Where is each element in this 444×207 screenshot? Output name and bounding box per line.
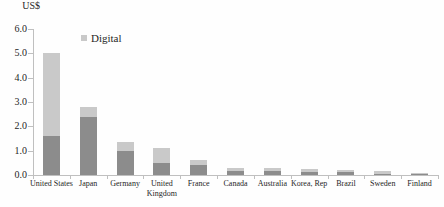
- x-category-label: Finland: [398, 179, 442, 189]
- bar-segment-base: [190, 165, 207, 175]
- bar-segment-base: [374, 174, 391, 175]
- y-tick-label: 2.0: [1, 120, 27, 131]
- digital-series-swatch-icon: [81, 35, 87, 41]
- bar-segment-digital: [153, 148, 170, 163]
- y-tick-label: 4.0: [1, 72, 27, 83]
- y-tick-label: 0.0: [1, 169, 27, 180]
- bar-segment-digital: [227, 168, 244, 171]
- bar-segment-digital: [411, 173, 428, 174]
- y-axis-title: US$: [0, 0, 40, 11]
- y-tick-label: 1.0: [1, 145, 27, 156]
- bar-segment-base: [337, 172, 354, 175]
- stacked-bar-chart: US$ Digital 0.01.02.03.04.05.06.0United …: [0, 0, 444, 207]
- bar-segment-digital: [190, 160, 207, 165]
- bar-segment-digital: [117, 142, 134, 151]
- legend: Digital: [81, 32, 122, 44]
- y-tick-label: 5.0: [1, 47, 27, 58]
- x-axis-line: [33, 175, 439, 176]
- bar-segment-digital: [337, 170, 354, 172]
- bar-segment-digital: [264, 168, 281, 171]
- legend-label-digital: Digital: [91, 32, 122, 44]
- bar-segment-base: [227, 171, 244, 175]
- bar-segment-base: [411, 174, 428, 175]
- bar-segment-digital: [80, 107, 97, 117]
- bar-segment-base: [153, 163, 170, 175]
- bar-segment-digital: [374, 171, 391, 173]
- y-tick-label: 3.0: [1, 96, 27, 107]
- bar-segment-base: [264, 171, 281, 175]
- bar-segment-digital: [43, 53, 60, 136]
- bar-segment-base: [117, 151, 134, 175]
- bar-segment-digital: [301, 169, 318, 172]
- y-axis-line: [33, 29, 34, 175]
- bar-segment-base: [80, 117, 97, 175]
- bar-segment-base: [301, 172, 318, 175]
- y-tick-label: 6.0: [1, 23, 27, 34]
- bar-segment-base: [43, 136, 60, 175]
